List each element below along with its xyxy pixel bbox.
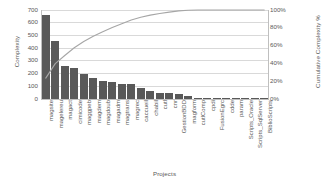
x-axis-tick-label: magsite [48, 100, 54, 121]
x-axis-tick-label: cdde [229, 100, 235, 113]
cumulative-line-series [41, 10, 269, 99]
x-axis-tick-label: maggpeb [86, 100, 92, 125]
x-axis-tick-label: magact [67, 100, 73, 120]
x-axis-tick-label: BiblioScripts [267, 100, 273, 133]
plot-area [41, 10, 269, 99]
x-axis-tick-label: magdem [96, 100, 102, 123]
x-axis-tick-label: magform [191, 100, 197, 124]
y-axis-left-tick-label: 700 [18, 7, 38, 13]
y-axis-right-tick-label: 40% [270, 60, 296, 66]
y-axis-left-tick-label: 200 [18, 70, 38, 76]
x-axis-tick-label: magrec [134, 100, 140, 120]
x-axis-tick-label: chabil [153, 100, 159, 116]
x-axis-tick-label: magtrans [124, 100, 130, 125]
y-axis-right-title: Cumulative Complexity % [314, 4, 321, 100]
x-axis-tick-label: param [238, 100, 244, 117]
x-axis-tick-label: Scripts_Oracle [248, 100, 254, 139]
x-axis-tick-label: magadm [115, 100, 121, 123]
x-axis-tick-label: cutl [162, 100, 168, 109]
x-axis-tick-label: magelereu [58, 100, 64, 128]
cumulative-line [46, 10, 265, 78]
x-axis-tick-label: cimicode [77, 100, 83, 124]
x-axis-tick-label: Scripts_SqlServer [257, 100, 263, 148]
x-axis-tick-label: GestionBDD [181, 100, 187, 133]
y-axis-right-tick-label: 100% [270, 7, 296, 13]
y-axis-right-tick-label: 20% [270, 78, 296, 84]
y-axis-left-tick-label: 500 [18, 32, 38, 38]
y-axis-right-tick-label: 60% [270, 42, 296, 48]
y-axis-right-tick-label: 80% [270, 24, 296, 30]
x-axis-tick-label: FusionEgrc [219, 100, 225, 130]
x-axis-tick-label: caccueil [143, 100, 149, 122]
y-axis-left-ticks: 0100200300400500600700 [18, 0, 38, 186]
pareto-chart: Complexity Cumulative Complexity % Proje… [0, 0, 329, 186]
y-axis-left-tick-label: 600 [18, 19, 38, 25]
y-axis-right-ticks: 0%20%40%60%80%100% [270, 0, 296, 186]
y-axis-left-tick-label: 0 [18, 96, 38, 102]
y-axis-right-tick-label: 0% [270, 96, 296, 102]
y-axis-left-tick-label: 100 [18, 83, 38, 89]
x-axis-tick-label: cpdi [210, 100, 216, 111]
x-axis-labels: magsitemagelereumagactcimicodemaggpebmag… [41, 100, 269, 170]
y-axis-left-tick-label: 400 [18, 45, 38, 51]
x-axis-tick-label: magdoub [105, 100, 111, 125]
x-axis-tick-label: cnr [172, 100, 178, 108]
x-axis-tick-label: cutlComp [200, 100, 206, 125]
y-axis-left-tick-label: 300 [18, 57, 38, 63]
